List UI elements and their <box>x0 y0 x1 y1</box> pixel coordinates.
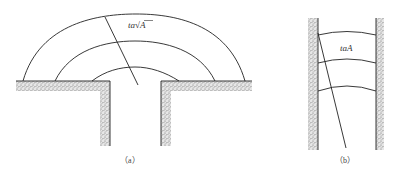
figure-a-label: ta√A <box>128 20 146 30</box>
channel-wavefront-1 <box>318 32 376 36</box>
figure-b-label: taA <box>340 43 353 53</box>
left-channel-wall <box>308 18 318 150</box>
wavefront-arc-middle <box>55 41 215 81</box>
right-channel-wall <box>376 18 384 150</box>
channel-wavefront-3 <box>318 86 376 91</box>
figure-a: ta√A （a） <box>16 14 252 165</box>
figure-a-caption: （a） <box>120 156 140 165</box>
right-ground-block <box>161 81 252 146</box>
channel-wavefront-2 <box>318 59 376 63</box>
figure-b-caption: （b） <box>335 156 355 165</box>
figure-b: taA （b） <box>308 18 384 165</box>
left-ground-block <box>16 81 110 146</box>
diagram-canvas: ta√A （a） taA （b） <box>0 0 398 178</box>
